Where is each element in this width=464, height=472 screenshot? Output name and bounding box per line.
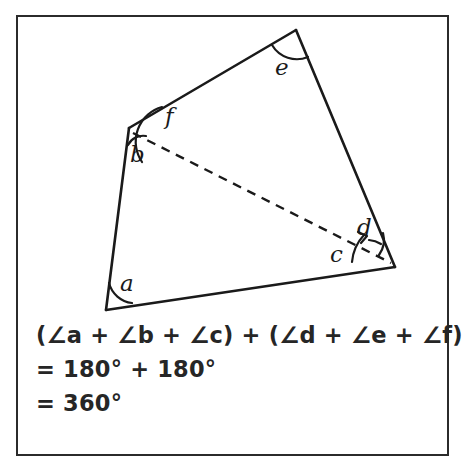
figure-page: a b c d e f (∠a + ∠b + ∠c) + (∠d + ∠e + … bbox=[0, 0, 464, 472]
side-bottom bbox=[106, 267, 395, 310]
diagonal-dashed-line bbox=[133, 133, 391, 263]
angle-label-b: b bbox=[130, 143, 145, 166]
angle-label-c: c bbox=[330, 243, 343, 266]
angle-label-d: d bbox=[357, 216, 372, 239]
angle-label-f: f bbox=[165, 105, 174, 128]
angle-label-a: a bbox=[120, 272, 134, 295]
side-right bbox=[296, 30, 395, 267]
angle-arc-d bbox=[369, 240, 381, 244]
equation-line-1: (∠a + ∠b + ∠c) + (∠d + ∠e + ∠f) bbox=[36, 322, 436, 348]
equation-block: (∠a + ∠b + ∠c) + (∠d + ∠e + ∠f) = 180° +… bbox=[36, 322, 436, 424]
equation-line-2: = 180° + 180° bbox=[36, 356, 436, 382]
equation-line-3: = 360° bbox=[36, 390, 436, 416]
angle-label-e: e bbox=[275, 56, 289, 79]
